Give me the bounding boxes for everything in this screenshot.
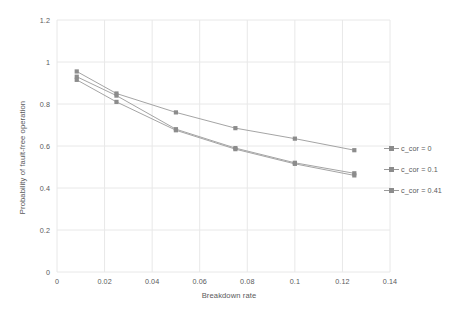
series-line-0 xyxy=(77,71,355,150)
series-line-1 xyxy=(77,77,355,174)
x-tick-label: 0.14 xyxy=(383,277,397,286)
series-markers xyxy=(75,69,357,177)
y-tick-label: 0.8 xyxy=(24,100,50,109)
legend-label: c_cor = 0.1 xyxy=(401,165,438,174)
legend-item-1[interactable]: c_cor = 0.1 xyxy=(384,159,458,180)
legend-label: c_cor = 0 xyxy=(401,144,432,153)
data-point-marker xyxy=(174,128,178,132)
y-tick-label: 1 xyxy=(24,58,50,67)
data-point-marker xyxy=(352,148,356,152)
data-point-marker xyxy=(114,94,118,98)
legend-marker-icon xyxy=(384,186,399,195)
x-tick-label: 0.08 xyxy=(240,277,254,286)
series-lines xyxy=(77,71,355,175)
data-point-marker xyxy=(75,78,79,82)
x-tick-label: 0 xyxy=(55,277,59,286)
y-tick-label: 0.2 xyxy=(24,226,50,235)
y-tick-label: 0.6 xyxy=(24,142,50,151)
x-tick-label: 0.02 xyxy=(97,277,111,286)
data-point-marker xyxy=(293,137,297,141)
legend-marker-icon xyxy=(384,165,399,174)
chart-container: 00.20.40.60.811.2 00.020.040.060.080.10.… xyxy=(0,0,458,313)
y-tick-label: 1.2 xyxy=(24,16,50,25)
legend-item-0[interactable]: c_cor = 0 xyxy=(384,138,458,159)
y-tick-label: 0.4 xyxy=(24,184,50,193)
legend-item-2[interactable]: c_cor = 0.41 xyxy=(384,180,458,201)
chart-legend: c_cor = 0c_cor = 0.1c_cor = 0.41 xyxy=(384,138,458,201)
data-point-marker xyxy=(114,100,118,104)
data-point-marker xyxy=(293,162,297,166)
data-point-marker xyxy=(352,173,356,177)
x-tick-label: 0.04 xyxy=(145,277,159,286)
x-axis-title: Breakdown rate xyxy=(0,291,458,300)
legend-marker-icon xyxy=(384,144,399,153)
data-point-marker xyxy=(75,69,79,73)
x-tick-label: 0.12 xyxy=(335,277,349,286)
x-tick-label: 0.06 xyxy=(192,277,206,286)
y-tick-label: 0 xyxy=(24,268,50,277)
legend-label: c_cor = 0.41 xyxy=(401,186,442,195)
x-tick-label: 0.1 xyxy=(290,277,300,286)
y-axis-title: Probability of fault-free operation xyxy=(18,68,27,248)
data-point-marker xyxy=(174,110,178,114)
grid-lines xyxy=(57,20,390,272)
data-point-marker xyxy=(233,147,237,151)
data-point-marker xyxy=(233,126,237,130)
